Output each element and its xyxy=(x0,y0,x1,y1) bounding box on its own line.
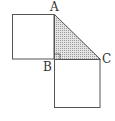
pythagoras-diagram: A B C xyxy=(0,0,115,121)
square-on-bc xyxy=(55,60,101,108)
label-a: A xyxy=(49,0,59,14)
square-on-ab xyxy=(13,15,55,60)
label-b: B xyxy=(43,60,52,74)
triangle-abc xyxy=(55,15,101,60)
label-c: C xyxy=(102,52,111,66)
